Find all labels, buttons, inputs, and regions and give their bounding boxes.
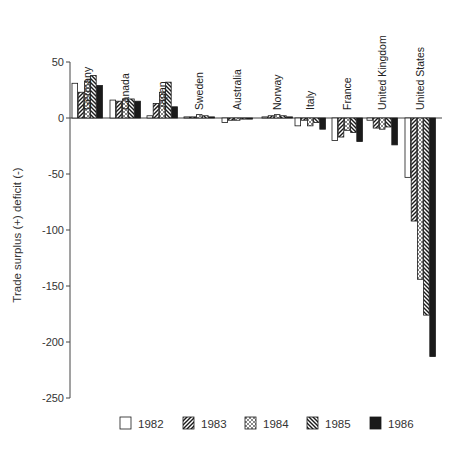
legend: 19821983198419851986 bbox=[120, 417, 414, 430]
bar-1984 bbox=[417, 118, 423, 279]
legend-item-1985: 1985 bbox=[307, 417, 351, 430]
legend-swatch bbox=[183, 417, 194, 429]
bar-1986 bbox=[392, 118, 398, 145]
y-axis-title: Trade surplus (+) deficit (-) bbox=[11, 167, 23, 303]
y-tick-label: -50 bbox=[48, 168, 64, 180]
country-label: United States bbox=[414, 47, 426, 110]
bar-group-united-kingdom bbox=[367, 118, 397, 145]
legend-item-1983: 1983 bbox=[183, 417, 227, 430]
legend-label: 1982 bbox=[138, 418, 164, 430]
bar-1982 bbox=[222, 118, 228, 122]
country-label: Germany bbox=[81, 66, 93, 110]
bar-1985 bbox=[281, 116, 287, 118]
bar-1983 bbox=[190, 117, 196, 118]
bar-1985 bbox=[203, 116, 209, 118]
bar-group-sweden bbox=[184, 115, 214, 118]
bar-1982 bbox=[147, 116, 153, 118]
legend-item-1986: 1986 bbox=[370, 417, 414, 430]
bar-1983 bbox=[411, 118, 417, 221]
bar-1986 bbox=[209, 117, 215, 118]
bar-1986 bbox=[135, 101, 141, 118]
country-label: Norway bbox=[271, 74, 283, 110]
bar-1984 bbox=[196, 115, 202, 118]
bar-1982 bbox=[110, 100, 116, 118]
bar-1985 bbox=[314, 118, 320, 122]
bar-1986 bbox=[320, 118, 326, 129]
y-tick-label: 0 bbox=[58, 112, 64, 124]
bar-1985 bbox=[241, 118, 247, 119]
bar-1985 bbox=[351, 118, 357, 133]
country-label: France bbox=[341, 77, 353, 110]
bar-1983 bbox=[228, 118, 234, 120]
legend-item-1984: 1984 bbox=[245, 417, 289, 430]
bar-1986 bbox=[97, 86, 103, 118]
bar-group-france bbox=[332, 118, 362, 142]
bar-1982 bbox=[295, 118, 301, 126]
legend-item-1982: 1982 bbox=[120, 417, 164, 430]
bar-group-norway bbox=[262, 115, 292, 118]
legend-swatch bbox=[245, 417, 256, 429]
bar-1983 bbox=[338, 118, 344, 137]
bar-1984 bbox=[234, 118, 240, 120]
legend-label: 1983 bbox=[201, 418, 227, 430]
legend-label: 1985 bbox=[325, 418, 351, 430]
bar-1982 bbox=[184, 117, 190, 118]
trade-balance-chart: Trade surplus (+) deficit (-) 500-50-100… bbox=[0, 0, 457, 451]
legend-swatch bbox=[307, 417, 318, 429]
y-tick-label: -250 bbox=[42, 392, 64, 404]
bar-1983 bbox=[268, 116, 274, 118]
country-label: Italy bbox=[304, 90, 316, 110]
y-axis-label: Trade surplus (+) deficit (-) bbox=[11, 167, 23, 303]
country-label: Sweden bbox=[193, 72, 205, 110]
bar-1986 bbox=[172, 107, 178, 118]
bar-1982 bbox=[405, 118, 411, 177]
bar-1985 bbox=[386, 118, 392, 127]
bar-1984 bbox=[379, 118, 385, 129]
bar-1983 bbox=[301, 118, 307, 120]
bar-1982 bbox=[262, 117, 268, 118]
bar-1982 bbox=[332, 118, 338, 140]
y-tick-label: -200 bbox=[42, 336, 64, 348]
bar-1983 bbox=[373, 118, 379, 128]
country-label: Canada bbox=[119, 73, 131, 110]
bar-1984 bbox=[344, 118, 350, 130]
bar-group-australia bbox=[222, 118, 252, 122]
bar-1984 bbox=[307, 118, 313, 126]
country-label: Australia bbox=[231, 69, 243, 110]
y-tick-label: 50 bbox=[52, 56, 64, 68]
country-label: Japan bbox=[156, 81, 168, 110]
bar-1986 bbox=[357, 118, 363, 142]
y-tick-label: -150 bbox=[42, 280, 64, 292]
legend-label: 1986 bbox=[388, 418, 414, 430]
y-tick-label: -100 bbox=[42, 224, 64, 236]
legend-swatch bbox=[120, 417, 131, 429]
bar-1982 bbox=[367, 118, 373, 120]
bar-1982 bbox=[72, 83, 78, 118]
bar-1985 bbox=[424, 118, 430, 315]
bar-group-italy bbox=[295, 118, 325, 129]
country-label: United Kingdom bbox=[376, 35, 388, 110]
bar-1986 bbox=[247, 118, 253, 119]
bar-1986 bbox=[430, 118, 436, 357]
bar-1986 bbox=[287, 117, 293, 118]
y-axis: 500-50-100-150-200-250 bbox=[42, 56, 70, 404]
bar-group-united-states bbox=[405, 118, 435, 357]
legend-label: 1984 bbox=[263, 418, 289, 430]
bar-1984 bbox=[274, 115, 280, 118]
legend-swatch bbox=[370, 417, 381, 429]
